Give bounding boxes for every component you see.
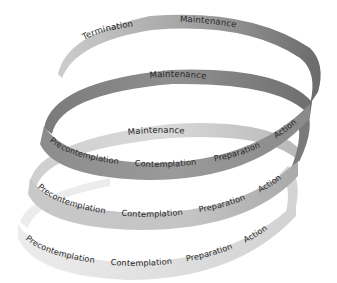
spiral-svg: Termination Maintenance Maintenance Main… [0, 0, 337, 283]
stages-of-change-spiral: Termination Maintenance Maintenance Main… [0, 0, 337, 283]
label-contemplation-loop4: Contemplation [110, 256, 172, 268]
label-contemplation-loop3: Contemplation [121, 207, 183, 219]
label-contemplation-loop2: Contemplation [134, 157, 196, 169]
